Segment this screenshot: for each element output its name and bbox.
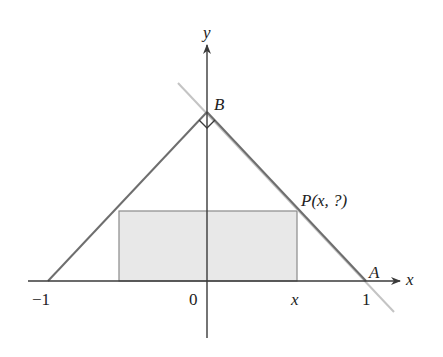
point-p-label: P(x, ?) <box>301 192 347 209</box>
y-axis-label: y <box>203 24 211 41</box>
tick-label-one: 1 <box>362 291 371 308</box>
diagram-canvas <box>0 0 443 357</box>
tick-label-x: x <box>291 291 299 308</box>
tick-label-zero: 0 <box>189 291 198 308</box>
x-axis-label: x <box>406 271 414 288</box>
point-a-label: A <box>369 264 379 281</box>
tick-label-neg-one: −1 <box>32 291 50 308</box>
shaded-rectangle <box>119 211 297 281</box>
point-b-label: B <box>214 96 224 113</box>
